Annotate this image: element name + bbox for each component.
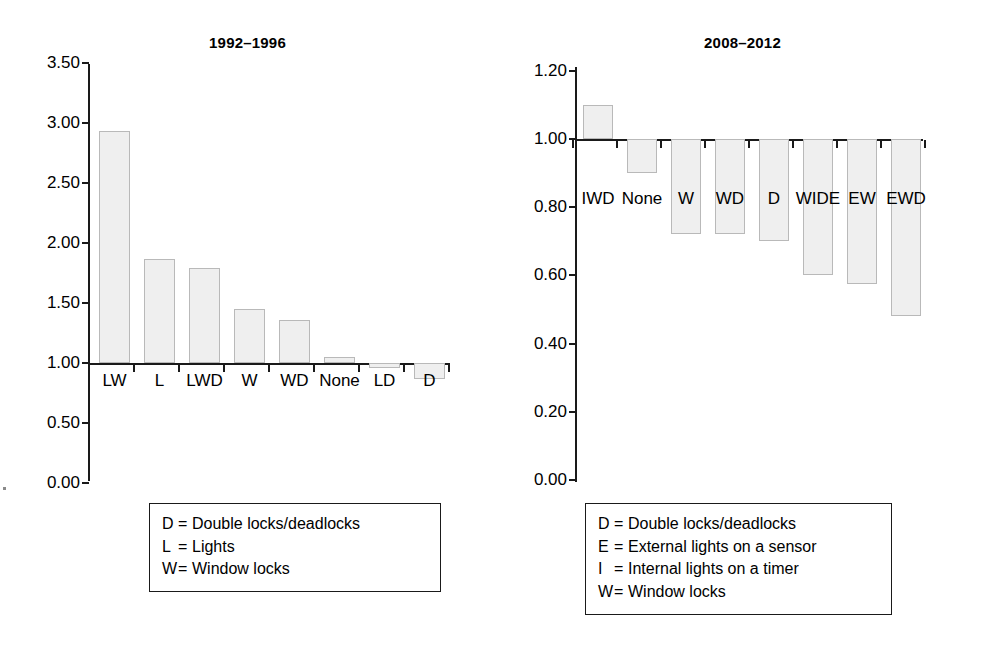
y-axis-tick: [82, 182, 89, 184]
legend-key: L: [162, 536, 178, 559]
y-axis-tick-label: 0.00: [20, 474, 80, 491]
y-axis-tick: [569, 70, 576, 72]
left-y-axis: [88, 64, 90, 481]
x-axis-tick: [836, 140, 838, 148]
y-axis-tick: [569, 274, 576, 276]
right-legend-box: D = Double locks/deadlocks E = External …: [585, 503, 892, 615]
x-axis-tick: [223, 364, 225, 372]
bar: [99, 131, 130, 363]
left-legend-box: D = Double locks/deadlocks L = Lights W …: [149, 503, 441, 592]
y-axis-tick: [569, 411, 576, 413]
x-axis-tick: [792, 140, 794, 148]
x-axis-tick: [268, 364, 270, 372]
bar: [671, 139, 701, 234]
x-axis-tick: [572, 140, 574, 148]
legend-description: Lights: [192, 536, 235, 559]
legend-key: W: [162, 558, 178, 581]
legend-equals: =: [614, 513, 628, 536]
bar: [583, 105, 613, 139]
legend-description: Double locks/deadlocks: [192, 513, 360, 536]
left-chart-panel: 1992–1996 3.503.002.502.001.501.000.500.…: [0, 0, 495, 660]
legend-item: D = Double locks/deadlocks: [162, 513, 428, 536]
legend-item: E = External lights on a sensor: [598, 536, 879, 559]
y-axis-tick-label: 0.60: [507, 266, 567, 283]
figure-root: 1992–1996 3.503.002.502.001.501.000.500.…: [0, 0, 990, 660]
legend-equals: =: [614, 536, 628, 559]
x-axis-tick: [880, 140, 882, 148]
y-axis-tick: [82, 122, 89, 124]
x-axis-tick: [133, 364, 135, 372]
legend-description: Double locks/deadlocks: [628, 513, 796, 536]
y-axis-tick-label: 2.50: [20, 174, 80, 191]
bar: [847, 139, 877, 284]
x-axis-tick: [924, 140, 926, 148]
y-axis-tick-label: 0.20: [507, 403, 567, 420]
legend-description: Window locks: [628, 581, 726, 604]
y-axis-tick: [569, 479, 576, 481]
y-axis-tick-label: 0.40: [507, 335, 567, 352]
legend-item: W = Window locks: [162, 558, 428, 581]
y-axis-tick: [82, 62, 89, 64]
x-axis-tick: [178, 364, 180, 372]
bar: [369, 363, 400, 368]
bar: [144, 259, 175, 363]
y-axis-tick: [569, 343, 576, 345]
left-plot-area: 3.503.002.502.001.501.000.500.00LWLLWDWW…: [0, 0, 495, 495]
legend-item: D = Double locks/deadlocks: [598, 513, 879, 536]
y-axis-tick-label: 2.00: [20, 234, 80, 251]
legend-description: External lights on a sensor: [628, 536, 817, 559]
y-axis-tick: [82, 482, 89, 484]
x-axis-tick: [704, 140, 706, 148]
right-chart-panel: 2008–2012 1.201.000.800.600.400.200.00IW…: [495, 0, 990, 660]
bar: [279, 320, 310, 363]
y-axis-tick: [82, 242, 89, 244]
y-axis-tick-label: 1.20: [507, 62, 567, 79]
legend-key: I: [598, 558, 614, 581]
bar: [324, 357, 355, 363]
y-axis-tick: [82, 302, 89, 304]
bar: [891, 139, 921, 316]
y-axis-tick-label: 0.00: [507, 471, 567, 488]
x-axis-category-label: EWD: [866, 190, 946, 207]
x-axis-tick: [403, 364, 405, 372]
legend-key: D: [162, 513, 178, 536]
x-axis-tick: [660, 140, 662, 148]
legend-equals: =: [614, 581, 628, 604]
y-axis-tick-label: 0.50: [20, 414, 80, 431]
legend-equals: =: [178, 536, 192, 559]
legend-equals: =: [614, 558, 628, 581]
right-plot-area: 1.201.000.800.600.400.200.00IWDNoneWWDDW…: [495, 0, 990, 495]
y-axis-tick-label: 3.00: [20, 114, 80, 131]
y-axis-tick-label: 1.00: [507, 130, 567, 147]
legend-item: L = Lights: [162, 536, 428, 559]
legend-equals: =: [178, 558, 192, 581]
y-axis-tick: [82, 422, 89, 424]
legend-description: Window locks: [192, 558, 290, 581]
bar: [234, 309, 265, 363]
legend-key: E: [598, 536, 614, 559]
legend-item: W = Window locks: [598, 581, 879, 604]
x-axis-tick: [616, 140, 618, 148]
x-axis-tick: [748, 140, 750, 148]
y-axis-tick-label: 3.50: [20, 54, 80, 71]
legend-description: Internal lights on a timer: [628, 558, 799, 581]
legend-key: D: [598, 513, 614, 536]
legend-item: I = Internal lights on a timer: [598, 558, 879, 581]
legend-key: W: [598, 581, 614, 604]
y-axis-tick-label: 1.00: [20, 354, 80, 371]
bar: [627, 139, 657, 173]
bar: [189, 268, 220, 363]
y-axis-tick-label: 1.50: [20, 294, 80, 311]
x-axis-tick: [448, 364, 450, 372]
legend-equals: =: [178, 513, 192, 536]
x-axis-tick: [358, 364, 360, 372]
x-axis-tick: [313, 364, 315, 372]
bar: [715, 139, 745, 234]
x-axis-tick: [88, 364, 90, 372]
x-axis-category-label: D: [390, 372, 470, 389]
